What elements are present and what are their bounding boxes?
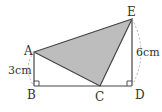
right-angle-b-icon <box>34 81 39 86</box>
point-label-c: C <box>95 90 104 104</box>
dimension-label-ab: 3cm <box>8 64 32 77</box>
dimension-label-ed: 6cm <box>136 46 160 59</box>
point-label-b: B <box>27 88 36 102</box>
shaded-triangle-ace <box>34 19 132 86</box>
right-angle-d-icon <box>127 81 132 86</box>
point-label-e: E <box>127 5 136 19</box>
geometry-diagram: A B C D E 3cm 6cm <box>0 0 162 112</box>
point-label-d: D <box>135 88 145 102</box>
point-label-a: A <box>23 44 33 58</box>
